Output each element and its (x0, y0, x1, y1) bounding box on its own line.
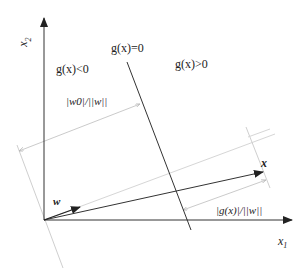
x1-axis-label: x1 (278, 234, 287, 250)
diagram-graphics (0, 0, 306, 277)
w0-distance-label: |w0|/||w|| (66, 95, 107, 107)
gx-distance-label: |g(x)|/||w|| (216, 204, 262, 216)
diagram-canvas: x2 x1 g(x)=0 g(x)<0 g(x)>0 |w0|/||w|| |g… (0, 0, 306, 277)
positive-region-label: g(x)>0 (175, 57, 208, 72)
x2-label-text: x (16, 42, 30, 47)
x1-label-sub: 1 (283, 241, 287, 250)
negative-region-label: g(x)<0 (56, 62, 89, 77)
w-vector-label: w (53, 195, 60, 207)
guide-tick (248, 129, 270, 137)
boundary-label: g(x)=0 (111, 41, 144, 56)
x2-label-sub: 2 (24, 38, 33, 42)
w0-distance-dimension (19, 104, 140, 151)
x2-axis-label: x2 (16, 38, 32, 47)
x-vector-label: x (261, 156, 267, 171)
decision-boundary-line (127, 62, 191, 230)
